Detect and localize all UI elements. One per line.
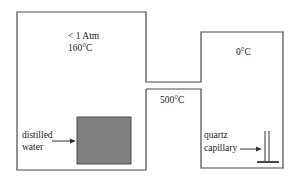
water-arrowhead-icon: [70, 139, 76, 144]
middle-section-temperature-label: 500°C: [160, 94, 184, 106]
left-chamber-pressure-label: < 1 Atm: [68, 30, 99, 42]
water-label-line1: distilled: [22, 129, 53, 141]
water-label-line2: water: [22, 141, 43, 153]
capillary-label-line2: capillary: [204, 142, 237, 154]
capillary-label-line1: quartz: [204, 129, 228, 141]
apparatus-diagram: [0, 0, 300, 181]
distilled-water-block: [77, 117, 131, 164]
capillary-arrowhead-icon: [256, 147, 262, 152]
right-chamber-temperature-label: 0°C: [236, 46, 251, 58]
left-chamber-temperature-label: 160°C: [68, 42, 92, 54]
